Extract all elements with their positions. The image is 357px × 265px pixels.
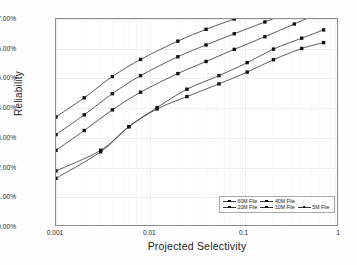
data-point-marker [155,107,158,110]
legend-swatch-icon [260,205,273,210]
data-point-marker [56,133,58,136]
y-tick-label: 95.00% [0,74,16,81]
series-40m-file [56,28,325,172]
legend-item-5m-file: 5M File [297,204,331,210]
data-point-marker [176,72,179,75]
chart-figure: Reliability Projected Selectivity 90.00%… [0,0,357,265]
series-line [56,19,322,117]
data-point-marker [111,92,114,95]
data-point-marker [233,19,236,21]
data-point-marker [204,60,207,63]
series-line [56,19,322,150]
data-point-marker [99,150,102,153]
data-point-marker [111,75,114,78]
y-tick-label: 96.00% [0,44,16,51]
data-point-marker [185,88,188,91]
legend-item-10m-file: 10M File [259,204,295,210]
chart-legend: 60M File40M File20M File10M File5M File [219,196,335,213]
data-point-marker [300,47,303,50]
data-point-marker [272,47,275,50]
data-point-marker [83,96,86,99]
y-axis-title: Reliability [13,49,24,139]
legend-item-label: 10M File [275,205,295,210]
data-point-marker [139,90,142,93]
data-point-marker [56,177,58,180]
series-line [56,43,324,179]
legend-item-label: 20M File [238,205,258,210]
legend-swatch-icon [223,205,236,210]
data-point-marker [56,169,58,172]
data-point-marker [272,58,275,61]
data-point-marker [233,48,236,51]
data-point-marker [217,74,220,77]
data-point-marker [83,129,86,132]
data-point-marker [300,36,303,39]
data-point-marker [263,35,266,38]
data-point-marker [263,20,266,23]
x-tick-label: 0.01 [143,229,156,236]
series-60m-file [56,41,325,180]
data-point-marker [139,58,142,61]
data-point-marker [176,39,179,42]
x-tick-label: 1 [336,229,340,236]
y-tick-label: 92.00% [0,163,16,170]
series-line [56,30,324,171]
data-point-marker [111,108,114,111]
legend-swatch-icon [298,205,311,210]
data-point-marker [204,43,207,46]
data-point-marker [127,125,130,128]
y-tick-label: 93.00% [0,133,16,140]
data-point-marker [176,55,179,58]
series-20m-file [56,19,322,152]
data-point-marker [293,22,296,25]
data-point-marker [246,70,249,73]
legend-swatch-icon [260,199,273,204]
data-point-marker [185,95,188,98]
y-tick-label: 94.00% [0,104,16,111]
series-lines [56,19,337,226]
x-axis-title: Projected Selectivity [55,240,339,252]
x-tick-label: 0.001 [47,229,64,236]
data-point-marker [56,149,58,152]
y-tick-label: 90.00% [0,223,16,230]
y-tick-label: 97.00% [0,15,16,22]
data-point-marker [56,115,58,118]
series-10m-file [56,19,322,136]
legend-item-20m-file: 20M File [222,204,258,210]
data-point-marker [83,113,86,116]
data-point-marker [322,28,325,31]
legend-swatch-icon [223,199,236,204]
plot-area [55,18,338,226]
data-point-marker [217,82,220,85]
data-point-marker [204,28,207,31]
x-tick-label: 0.1 [239,229,248,236]
y-tick-label: 91.00% [0,193,16,200]
data-point-marker [322,41,325,44]
legend-item-label: 5M File [312,205,329,210]
data-point-marker [246,61,249,64]
data-point-marker [233,32,236,35]
data-point-marker [139,74,142,77]
